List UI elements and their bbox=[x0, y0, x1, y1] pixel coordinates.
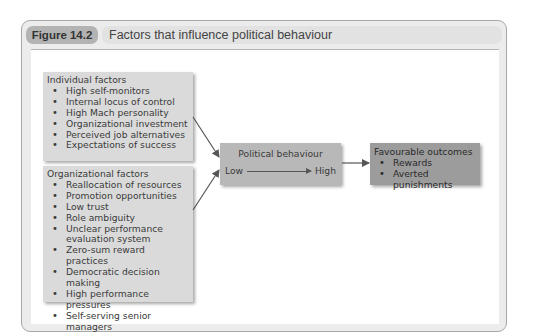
political-behaviour-heading: Political behaviour bbox=[224, 149, 337, 160]
scale-high-label: High bbox=[315, 166, 336, 177]
scale-low-label: Low bbox=[225, 166, 243, 177]
political-behaviour-box: Political behaviour Low High bbox=[220, 143, 341, 185]
favourable-outcomes-box: Favourable outcomes Rewards Averted puni… bbox=[370, 143, 480, 185]
organizational-factors-list: Reallocation of resources Promotion oppo… bbox=[47, 180, 189, 333]
organizational-factors-box: Organizational factors Reallocation of r… bbox=[43, 166, 193, 302]
list-item: High performance pressures bbox=[47, 289, 189, 311]
list-item: Role ambiguity bbox=[47, 213, 189, 224]
list-item: Organizational investment bbox=[47, 119, 189, 130]
list-item: Unclear performance evaluation system bbox=[47, 224, 189, 246]
individual-factors-box: Individual factors High self-monitors In… bbox=[43, 72, 193, 161]
figure-title: Factors that influence political behavio… bbox=[102, 26, 502, 44]
figure-label: Figure 14.2 bbox=[26, 26, 98, 44]
list-item: Democratic decision making bbox=[47, 267, 189, 289]
individual-factors-list: High self-monitors Internal locus of con… bbox=[47, 86, 189, 151]
list-item: Self-serving senior managers bbox=[47, 311, 189, 333]
low-high-scale: Low High bbox=[224, 166, 337, 177]
scale-arrow-icon bbox=[247, 171, 311, 172]
favourable-outcomes-list: Rewards Averted punishments bbox=[374, 158, 476, 191]
list-item: Low trust bbox=[47, 202, 189, 213]
list-item: Expectations of success bbox=[47, 140, 189, 151]
list-item: Averted punishments bbox=[374, 169, 476, 191]
list-item: Zero-sum reward practices bbox=[47, 245, 189, 267]
list-item: High Mach personality bbox=[47, 108, 189, 119]
